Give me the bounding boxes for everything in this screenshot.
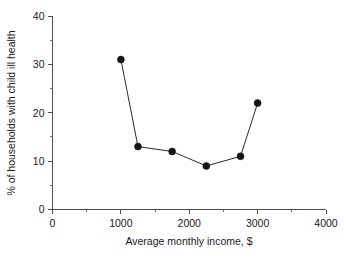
x-tick-label: 2000 [178, 217, 202, 229]
axes [53, 16, 327, 210]
chart-figure: 010203040 01000200030004000 Average mont… [0, 0, 346, 258]
x-tick-label: 3000 [246, 217, 270, 229]
y-axis-ticks [48, 16, 53, 210]
data-line [121, 60, 258, 166]
y-tick-label: 0 [39, 203, 45, 215]
x-axis-ticks [53, 210, 327, 215]
y-axis-tick-labels: 010203040 [33, 10, 45, 216]
line-chart-canvas: 010203040 01000200030004000 Average mont… [0, 0, 346, 258]
data-point-marker [203, 162, 210, 169]
data-point-marker [134, 143, 141, 150]
x-tick-label: 0 [50, 217, 56, 229]
x-tick-label: 4000 [314, 217, 338, 229]
data-point-markers [117, 56, 261, 169]
y-axis-title: % of households with child ill health [5, 30, 17, 195]
y-tick-label: 30 [33, 58, 45, 70]
data-point-marker [254, 100, 261, 107]
data-point-marker [237, 153, 244, 160]
y-tick-label: 40 [33, 10, 45, 22]
data-point-marker [117, 56, 124, 63]
x-axis-title: Average monthly income, $ [125, 235, 252, 247]
x-tick-label: 1000 [109, 217, 133, 229]
x-axis-tick-labels: 01000200030004000 [50, 217, 338, 229]
y-tick-label: 20 [33, 107, 45, 119]
data-point-marker [169, 148, 176, 155]
y-tick-label: 10 [33, 155, 45, 167]
